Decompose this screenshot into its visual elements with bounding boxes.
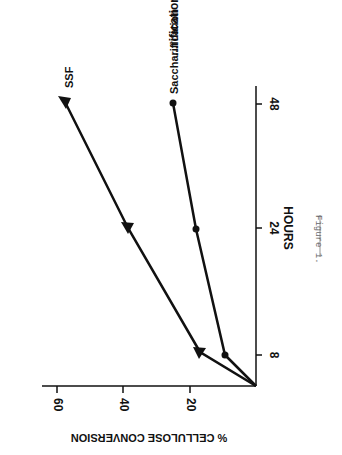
hours-tick-labels: 8 24 48: [267, 97, 281, 358]
saccharification-label: Saccharification: [168, 9, 180, 94]
sacch-marker: [170, 100, 177, 107]
ssf-label: SSF: [63, 66, 75, 88]
axes: [42, 86, 262, 393]
sacch-marker: [222, 352, 229, 359]
svg-text:24: 24: [267, 221, 281, 235]
svg-text:Figure 1.: Figure 1.: [313, 215, 323, 264]
percent-tick-labels: 20 40 60: [51, 398, 198, 412]
series-saccharification: Saccharification: [168, 9, 256, 386]
y-axis-label: % CELLULOSE CONVERSION: [71, 432, 228, 444]
svg-text:40: 40: [117, 398, 131, 412]
svg-text:48: 48: [267, 97, 281, 111]
series-ssf: SSF: [58, 66, 256, 386]
ssf-marker: [121, 222, 134, 234]
svg-text:20: 20: [184, 398, 198, 412]
x-axis-label: HOURS: [281, 206, 295, 249]
chart-figure: ...rification 8 24 48 HOURS 20 40 60 % C…: [0, 0, 342, 455]
svg-text:8: 8: [267, 352, 281, 359]
sacch-marker: [193, 226, 200, 233]
svg-text:60: 60: [51, 398, 65, 412]
ssf-marker: [58, 96, 71, 109]
figure-caption: Figure 1.: [313, 215, 323, 264]
